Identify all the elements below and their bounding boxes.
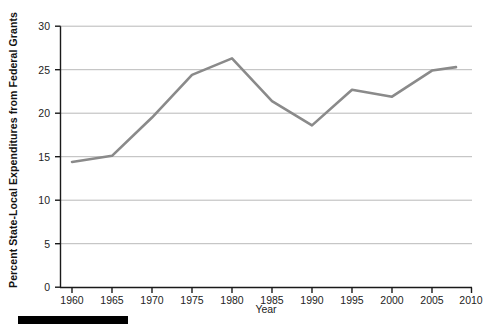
y-axis xyxy=(55,26,61,287)
y-tick-label-25: 25 xyxy=(38,64,50,76)
data-series-line xyxy=(72,58,456,162)
plot-area: 30 25 20 15 10 5 0 1960 1965 1970 xyxy=(0,0,496,330)
y-tick-label-30: 30 xyxy=(38,20,50,32)
gridlines xyxy=(60,26,472,244)
y-tick-label-10: 10 xyxy=(38,194,50,206)
line-chart: Percent State-Local Expenditures from Fe… xyxy=(0,0,496,330)
page-edge-black-bar xyxy=(18,316,128,324)
x-axis xyxy=(60,288,472,294)
y-tick-labels: 30 25 20 15 10 5 0 xyxy=(38,20,50,293)
y-tick-label-5: 5 xyxy=(44,238,50,250)
y-tick-label-15: 15 xyxy=(38,151,50,163)
x-axis-title: Year xyxy=(60,303,472,315)
y-tick-label-20: 20 xyxy=(38,107,50,119)
y-tick-label-0: 0 xyxy=(44,281,50,293)
